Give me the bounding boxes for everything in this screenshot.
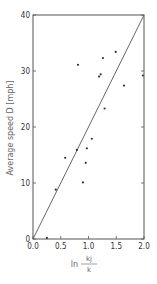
y-axis-ticks: 010203040 <box>21 11 144 244</box>
data-point <box>77 64 79 66</box>
x-axis-ticks: 0.00.51.01.52.0 <box>27 236 150 251</box>
data-point <box>64 157 66 159</box>
regression-line <box>33 15 144 239</box>
scatter-chart: 010203040 0.00.51.01.52.0 Average speed … <box>0 0 157 284</box>
x-axis-label: ln kj k <box>71 255 97 274</box>
x-axis-label-denominator: k <box>87 266 92 274</box>
y-tick-label: 10 <box>21 179 31 188</box>
data-point <box>86 147 88 149</box>
x-axis-label-numerator: kj <box>86 255 92 263</box>
data-point <box>123 84 125 86</box>
data-point <box>98 76 100 78</box>
y-tick-label: 30 <box>21 67 31 76</box>
data-point <box>85 162 87 164</box>
y-axis-label: Average speed D [mph] <box>6 81 15 176</box>
x-tick-label: 1.5 <box>111 242 122 251</box>
data-points <box>46 51 144 239</box>
data-point <box>142 74 144 76</box>
data-point <box>102 57 104 59</box>
data-point <box>46 237 48 239</box>
x-tick-label: 0.0 <box>27 242 39 251</box>
data-point <box>91 138 93 140</box>
y-tick-label: 40 <box>21 11 31 20</box>
data-point <box>82 181 84 183</box>
fitted-line <box>33 15 144 239</box>
y-tick-label: 20 <box>21 123 31 132</box>
data-point <box>100 73 102 75</box>
x-tick-label: 2.0 <box>138 242 150 251</box>
x-axis-label-prefix: ln <box>71 260 78 269</box>
data-point <box>76 149 78 151</box>
x-tick-label: 1.0 <box>83 242 95 251</box>
data-point <box>55 189 57 191</box>
data-point <box>115 51 117 53</box>
data-point <box>103 107 105 109</box>
x-tick-label: 0.5 <box>55 242 66 251</box>
